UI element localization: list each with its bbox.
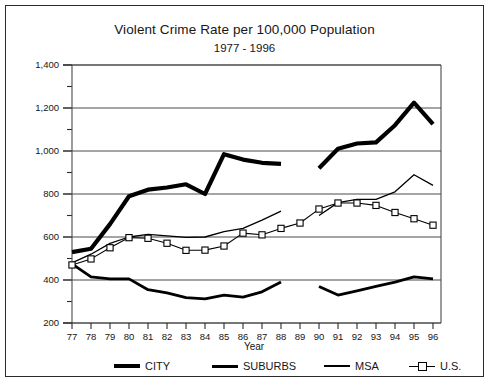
legend-item-city[interactable]: CITY [114,356,170,374]
data-point-marker [69,262,75,268]
data-point-marker [88,256,94,262]
data-point-marker [411,216,417,222]
data-point-marker [354,200,360,206]
legend-item-suburbs[interactable]: SUBURBS [212,356,296,374]
legend-line-msa-icon [324,360,350,372]
legend-item-msa[interactable]: MSA [324,356,379,374]
data-point-marker [392,209,398,215]
data-point-marker [430,222,436,228]
data-point-marker [202,247,208,253]
legend-label-msa: MSA [355,360,379,372]
y-axis-ticks [63,65,72,323]
x-tick-label: 91 [333,331,344,342]
x-tick-label: 89 [295,331,306,342]
data-point-marker [107,245,113,251]
x-tick-label: 82 [162,331,173,342]
series-suburbs [72,264,433,299]
plot-area: 2004006008001,0001,2001,400 777879808182… [1,1,491,384]
x-tick-label: 88 [276,331,287,342]
data-point-marker [183,247,189,253]
y-tick-label: 1,400 [35,59,59,70]
legend-label-city: CITY [145,360,170,372]
y-tick-label: 600 [43,231,59,242]
x-axis-title: Year [244,341,265,352]
x-tick-label: 80 [124,331,135,342]
x-axis-ticks [72,323,433,329]
series-us [69,200,436,268]
x-tick-label: 77 [67,331,78,342]
data-point-marker [259,232,265,238]
series-lines [69,103,436,299]
data-point-marker [240,230,246,236]
chart-legend: CITY SUBURBS MSA U.S. [6,356,483,378]
series-city [72,103,433,253]
data-point-marker [316,206,322,212]
x-tick-label: 94 [390,331,401,342]
x-tick-label: 83 [181,331,192,342]
data-point-marker [297,220,303,226]
y-tick-label: 1,000 [35,145,59,156]
legend-line-city-icon [114,360,140,372]
data-point-marker [126,235,132,241]
legend-line-us-icon [409,360,435,372]
x-tick-label: 84 [200,331,211,342]
y-tick-label: 400 [43,274,59,285]
legend-label-suburbs: SUBURBS [243,360,296,372]
data-point-marker [145,235,151,241]
x-tick-label: 90 [314,331,325,342]
y-axis-tick-labels: 2004006008001,0001,2001,400 [35,59,59,328]
series-msa [72,175,433,263]
data-point-marker [335,200,341,206]
x-tick-label: 93 [371,331,382,342]
legend-label-us: U.S. [440,360,461,372]
legend-item-us[interactable]: U.S. [409,356,461,374]
y-tick-label: 800 [43,188,59,199]
x-tick-label: 78 [86,331,97,342]
x-tick-label: 96 [428,331,439,342]
legend-line-suburbs-icon [212,360,238,372]
data-point-marker [278,225,284,231]
x-tick-label: 92 [352,331,363,342]
y-tick-label: 1,200 [35,102,59,113]
x-tick-label: 85 [219,331,230,342]
data-point-marker [164,240,170,246]
x-tick-label: 81 [143,331,154,342]
x-tick-label: 95 [409,331,420,342]
y-tick-label: 200 [43,317,59,328]
data-point-marker [373,202,379,208]
x-tick-label: 79 [105,331,116,342]
data-point-marker [221,243,227,249]
chart-figure: Violent Crime Rate per 100,000 Populatio… [5,5,484,377]
